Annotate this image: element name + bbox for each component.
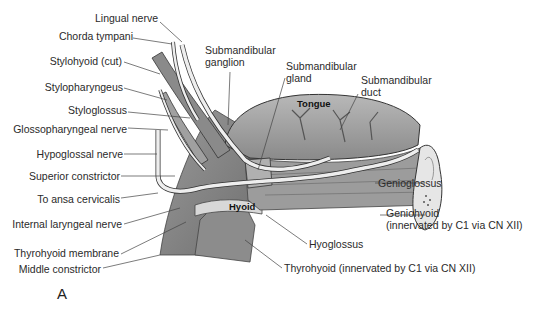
label-genioglossus: Genioglossus [378,177,442,189]
label-stylohyoid-cut: Stylohyoid (cut) [50,55,122,67]
label-glossopharyngeal-nerve: Glossopharyngeal nerve [13,123,127,135]
label-submandibular-duct: Submandibular duct [361,74,432,98]
hyoid-label: Hyoid [229,201,255,212]
panel-letter: A [57,285,67,302]
label-styloglossus: Styloglossus [68,104,127,116]
label-thyrohyoid: Thyrohyoid (innervated by C1 via CN XII) [284,262,475,274]
label-internal-laryngeal-nerve: Internal laryngeal nerve [12,218,122,230]
label-hypoglossal-nerve: Hypoglossal nerve [37,148,123,160]
label-thyrohyoid-membrane: Thyrohyoid membrane [14,247,119,259]
anatomy-figure: Tongue Hyoid Lingual nerve Chorda tympan… [0,0,533,313]
label-hyoglossus: Hyoglossus [309,238,363,250]
label-middle-constrictor: Middle constrictor [19,263,101,275]
label-to-ansa-cervicalis: To ansa cervicalis [37,193,120,205]
label-submandibular-ganglion: Submandibular ganglion [205,44,276,68]
label-geniohyoid: Geniohyoid (innervated by C1 via CN XII) [386,207,523,231]
label-submandibular-gland: Submandibular gland [286,60,357,84]
tongue-label: Tongue [297,98,331,109]
label-lingual-nerve: Lingual nerve [95,12,158,24]
label-superior-constrictor: Superior constrictor [29,170,120,182]
label-stylopharyngeus: Stylopharyngeus [45,81,123,93]
label-chorda-tympani: Chorda tympani [59,30,133,42]
